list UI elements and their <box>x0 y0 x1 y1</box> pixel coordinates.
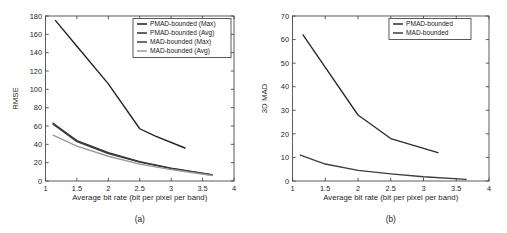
x-tick-label: 1.5 <box>72 184 82 193</box>
y-axis-title: RMSE <box>11 87 20 110</box>
y-tick-label: 100 <box>30 85 42 94</box>
y-tick-label: 80 <box>34 103 42 112</box>
plot-frame <box>293 16 490 181</box>
y-tick-label: 10 <box>281 153 289 162</box>
y-tick-label: 0 <box>38 177 42 186</box>
legend-label: PMAD-bounded <box>406 20 453 27</box>
panel-caption: (b) <box>386 214 396 224</box>
x-tick-label: 1 <box>290 184 294 193</box>
y-tick-label: 160 <box>30 30 42 39</box>
chart-a-svg: 11.522.533.54020406080100120140160180Ave… <box>0 0 253 233</box>
y-tick-label: 0 <box>285 177 289 186</box>
y-tick-label: 20 <box>281 130 289 139</box>
series-line-mad-bounded <box>300 155 466 179</box>
y-axis-title: 3D MAD <box>260 83 269 113</box>
x-tick-label: 1 <box>43 184 47 193</box>
y-tick-label: 180 <box>30 12 42 21</box>
legend-label: PMAD-bounded (Avg) <box>150 29 214 37</box>
chart-panel-a: 11.522.533.54020406080100120140160180Ave… <box>0 0 253 233</box>
y-tick-label: 50 <box>281 59 289 68</box>
x-tick-label: 3.5 <box>451 184 461 193</box>
y-tick-label: 120 <box>30 67 42 76</box>
y-tick-label: 20 <box>34 158 42 167</box>
x-tick-label: 2 <box>106 184 110 193</box>
figure-container: 11.522.533.54020406080100120140160180Ave… <box>0 0 507 233</box>
series-line-pmad-bounded-avg <box>53 123 212 174</box>
y-tick-label: 30 <box>281 106 289 115</box>
series-line-pmad-bounded <box>303 35 438 153</box>
y-tick-label: 40 <box>34 140 42 149</box>
x-tick-label: 3.5 <box>197 184 207 193</box>
panel-caption: (a) <box>135 214 145 224</box>
y-tick-label: 60 <box>34 122 42 131</box>
x-tick-label: 2 <box>356 184 360 193</box>
legend-label: MAD-bounded (Max) <box>150 38 211 46</box>
chart-panel-b: 11.522.533.54010203040506070Average bit … <box>253 0 506 233</box>
x-tick-label: 2.5 <box>386 184 396 193</box>
x-tick-label: 3 <box>421 184 425 193</box>
x-tick-label: 4 <box>487 184 491 193</box>
y-tick-label: 140 <box>30 48 42 57</box>
legend-label: PMAD-bounded (Max) <box>150 20 216 28</box>
x-axis-title: Average bit rate (bit per pixel per band… <box>72 193 207 202</box>
y-tick-label: 40 <box>281 82 289 91</box>
y-tick-label: 70 <box>281 12 289 21</box>
x-axis-title: Average bit rate (bit per pixel per band… <box>323 193 458 202</box>
x-tick-label: 1.5 <box>320 184 330 193</box>
legend-label: MAD-bounded <box>406 29 449 36</box>
x-tick-label: 3 <box>169 184 173 193</box>
chart-b-svg: 11.522.533.54010203040506070Average bit … <box>253 0 507 233</box>
series-line-mad-bounded-max <box>53 124 212 175</box>
legend-label: MAD-bounded (Avg) <box>150 47 210 55</box>
y-tick-label: 60 <box>281 35 289 44</box>
x-tick-label: 4 <box>232 184 236 193</box>
x-tick-label: 2.5 <box>135 184 145 193</box>
